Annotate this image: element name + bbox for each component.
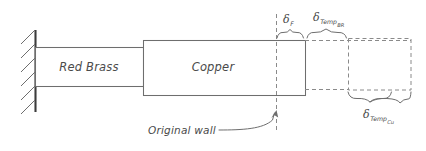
original-wall-label: Original wall <box>148 124 216 136</box>
red-brass-label: Red Brass <box>59 60 118 74</box>
copper-block: Copper <box>144 41 306 96</box>
delta-f-delta: δ <box>283 13 290 26</box>
delta-temp-br-subscript: Temp <box>320 18 337 26</box>
copper-edge-extension-dashes <box>305 41 411 90</box>
delta-temp-cu-symbol: δTempCu <box>363 108 395 125</box>
diagram-canvas: Red Brass Copper δF δTem <box>0 0 426 151</box>
fixed-support-wall <box>21 30 36 114</box>
ghost-block-outline <box>349 39 412 91</box>
wall-hatching <box>21 30 35 114</box>
dimension-brace-delta-temp-cu: δTempCu <box>348 92 411 125</box>
delta-temp-cu-delta: δ <box>363 108 370 121</box>
dimension-brace-delta-f: δF <box>277 13 304 38</box>
original-wall-leader-arrowhead <box>271 110 278 118</box>
delta-temp-br-subscript2: BR <box>337 22 345 28</box>
delta-f-brace <box>277 30 304 39</box>
copper-label: Copper <box>192 60 236 74</box>
deformation-diagram: Red Brass Copper δF δTem <box>0 0 426 151</box>
delta-temp-cu-subscript2: Cu <box>387 119 395 125</box>
delta-f-symbol: δF <box>283 13 294 27</box>
delta-f-subscript: F <box>290 20 294 27</box>
dimension-brace-delta-temp-br: δTempBR <box>307 11 347 38</box>
original-wall-leader-line <box>219 113 275 130</box>
copper-thermal-expansion-ghost <box>349 39 412 91</box>
delta-temp-br-brace <box>307 29 347 38</box>
delta-temp-cu-brace-left <box>348 92 392 102</box>
delta-temp-br-delta: δ <box>313 11 320 24</box>
delta-temp-cu-subscript: Temp <box>370 115 387 123</box>
delta-temp-br-symbol: δTempBR <box>313 11 345 28</box>
original-wall-annotation: Original wall <box>148 110 278 136</box>
red-brass-block: Red Brass <box>36 48 144 87</box>
